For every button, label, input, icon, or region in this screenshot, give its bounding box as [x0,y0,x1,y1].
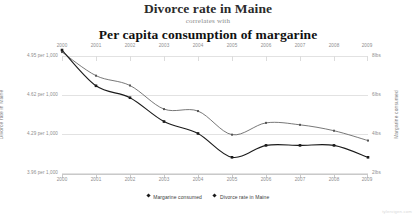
y-label-right-0: 8lbs [372,53,402,58]
y-label-left-0: 4.95 per 1,000 [8,53,58,58]
x-label-top-2000: 2000 [49,43,75,48]
x-label-top-2008: 2008 [321,43,347,48]
x-label-top-2005: 2005 [219,43,245,48]
x-label-bot-2004: 2004 [185,177,211,182]
data-point-marker [61,49,64,52]
y-axis-title-left: Divorce rate in Maine [0,90,4,140]
diamond-marker-icon [146,194,150,198]
legend-label-margarine: Margarine consumed [153,194,202,200]
y-label-left-3: 3.96 per 1,000 [8,170,58,175]
watermark: tylervigen.com [382,209,412,214]
x-tick-top-8 [334,56,335,61]
x-tick-top-2 [130,56,131,61]
x-label-bot-2001: 2001 [83,177,109,182]
x-label-top-2003: 2003 [151,43,177,48]
gridline-2 [62,95,368,96]
x-tick-top-9 [367,56,368,61]
x-label-bot-2008: 2008 [321,177,347,182]
page-title: Divorce rate in Maine [0,2,416,16]
x-label-bot-2003: 2003 [151,177,177,182]
x-tick-top-5 [232,56,233,61]
data-point-marker [61,51,63,53]
x-label-bot-2009: 2009 [354,177,380,182]
x-tick-top-4 [198,56,199,61]
x-label-top-2002: 2002 [117,43,143,48]
chart-root: Divorce rate in Maine correlates with Pe… [0,0,416,217]
chart-legend: Margarine consumed Divorce rate in Maine [0,193,416,200]
x-tick-top-3 [164,56,165,61]
legend-label-divorce: Divorce rate in Maine [220,194,269,200]
x-tick-top-7 [300,56,301,61]
page-subtitle: Per capita consumption of margarine [0,27,416,42]
x-label-bot-2005: 2005 [219,177,245,182]
x-label-bot-2006: 2006 [253,177,279,182]
x-label-top-2007: 2007 [287,43,313,48]
plot-area [62,56,368,174]
x-label-top-2006: 2006 [253,43,279,48]
x-axis-line [62,174,368,175]
diamond-marker-icon [213,194,217,198]
legend-item-margarine[interactable]: Margarine consumed [147,193,202,200]
y-axis-title-right: Margarine consumed [394,90,399,139]
y-label-left-2: 4.29 per 1,000 [8,131,58,136]
x-tick-top-1 [96,56,97,61]
x-label-top-2004: 2004 [185,43,211,48]
title-connector: correlates with [0,17,416,26]
chart-title-block: Divorce rate in Maine correlates with Pe… [0,0,416,42]
x-label-bot-2002: 2002 [117,177,143,182]
legend-item-divorce[interactable]: Divorce rate in Maine [213,193,269,200]
x-label-top-2009: 2009 [354,43,380,48]
gridline-top [62,56,368,57]
x-label-bot-2007: 2007 [287,177,313,182]
gridline-3 [62,134,368,135]
x-tick-top-0 [62,56,63,61]
x-label-bot-2000: 2000 [49,177,75,182]
x-label-top-2001: 2001 [83,43,109,48]
y-label-right-3: 2lbs [372,170,402,175]
y-label-left-1: 4.62 per 1,000 [8,92,58,97]
x-tick-top-6 [266,56,267,61]
